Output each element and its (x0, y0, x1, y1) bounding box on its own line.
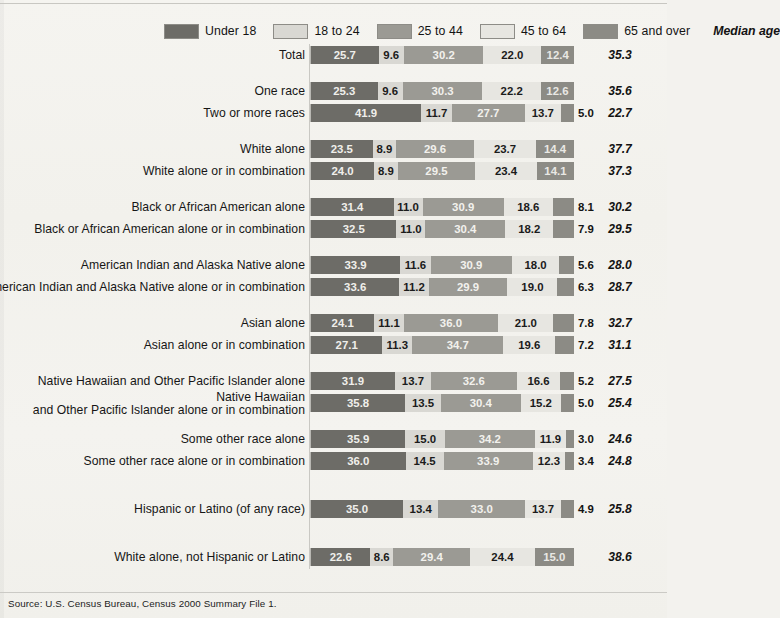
bar-segment-0: 24.0 (311, 162, 374, 180)
legend-item-label: Under 18 (205, 24, 256, 38)
row-group-spacer (0, 124, 667, 138)
row-label-line: Total (279, 48, 305, 62)
bar-segment-1: 14.5 (406, 452, 444, 470)
bar-segment-2: 36.0 (404, 314, 499, 332)
bar-segment-3: 19.6 (503, 336, 555, 354)
bar-segment-2: 30.9 (423, 198, 504, 216)
bar-segment-3: 23.7 (474, 140, 536, 158)
bar-segment-3: 23.4 (475, 162, 537, 180)
legend-item-2: 25 to 44 (377, 24, 463, 39)
stacked-bar: 25.39.630.322.212.6 (310, 82, 574, 100)
bar-segment-3: 12.3 (533, 452, 565, 470)
chart-legend: Under 1818 to 2425 to 4445 to 6465 and o… (0, 20, 667, 42)
bar-segment-0: 31.9 (311, 372, 395, 390)
stacked-bar: 24.08.929.523.414.1 (310, 162, 574, 180)
bar-segment-3: 18.0 (512, 256, 559, 274)
bar-segment-0: 35.8 (311, 394, 405, 412)
legend-item-3: 45 to 64 (480, 24, 566, 39)
top-rule (0, 3, 667, 4)
median-age-value: 37.7 (590, 140, 650, 158)
bar-segment-2: 30.4 (441, 394, 521, 412)
bar-segment-2: 29.5 (398, 162, 476, 180)
stacked-bar: 32.511.030.418.27.9 (310, 220, 574, 238)
bar-segment-0: 36.0 (311, 452, 406, 470)
stacked-bar: 36.014.533.912.33.4 (310, 452, 574, 470)
median-age-value: 27.5 (590, 372, 650, 390)
row-label-line: Asian alone (241, 316, 305, 330)
bar-segment-2: 34.2 (445, 430, 535, 448)
bar-segment-3: 15.2 (521, 394, 561, 412)
row-group-spacer (0, 520, 667, 546)
bar-segment-2: 34.7 (412, 336, 503, 354)
bar-segment-4: 6.3 (557, 278, 574, 296)
bar-segment-4: 7.2 (555, 336, 574, 354)
median-age-value: 35.6 (590, 82, 650, 100)
bar-segment-2: 32.6 (431, 372, 517, 390)
bar-segment-3: 13.7 (525, 500, 561, 518)
median-age-value: 32.7 (590, 314, 650, 332)
row-label: Some other race alone (181, 428, 305, 450)
chart-row: White alone, not Hispanic or Latino22.68… (0, 546, 667, 568)
bar-segment-1: 9.6 (378, 82, 403, 100)
bar-segment-2: 29.9 (429, 278, 508, 296)
row-label-line: Black or African American alone (131, 200, 305, 214)
bar-segment-1: 11.0 (394, 198, 423, 216)
bar-segment-0: 24.1 (311, 314, 374, 332)
median-age-value: 28.0 (590, 256, 650, 274)
median-age-value: 30.2 (590, 198, 650, 216)
bar-segment-2: 29.4 (393, 548, 470, 566)
bar-segment-3: 16.6 (517, 372, 561, 390)
row-label-line: White alone (240, 142, 305, 156)
row-label: White alone, not Hispanic or Latino (114, 546, 305, 568)
row-label: Native Hawaiianand Other Pacific Islande… (33, 391, 305, 416)
median-age-value: 29.5 (590, 220, 650, 238)
bar-segment-1: 15.0 (405, 430, 444, 448)
legend-swatch-icon (377, 24, 412, 39)
median-age-header: Median age (713, 24, 780, 38)
bar-segment-3: 18.2 (505, 220, 553, 238)
bar-segment-3: 24.4 (470, 548, 534, 566)
bar-segment-4: 7.8 (553, 314, 574, 332)
row-label-line: Asian alone or in combination (144, 338, 305, 352)
row-label: One race (254, 80, 305, 102)
bar-segment-3: 13.7 (525, 104, 561, 122)
bar-segment-0: 22.6 (311, 548, 370, 566)
bar-segment-4: 12.4 (541, 46, 574, 64)
bar-segment-4: 3.0 (566, 430, 574, 448)
row-label: Total (279, 44, 305, 66)
row-label: American Indian and Alaska Native alone … (0, 276, 305, 298)
legend-item-label: 45 to 64 (521, 24, 566, 38)
median-age-value: 38.6 (590, 548, 650, 566)
legend-item-4: 65 and over (583, 24, 690, 39)
row-label: Black or African American alone (131, 196, 305, 218)
row-label-line: Two or more races (203, 106, 305, 120)
row-label: Hispanic or Latino (of any race) (134, 498, 305, 520)
bar-segment-4: 14.1 (537, 162, 574, 180)
stacked-bar: 27.111.334.719.67.2 (310, 336, 574, 354)
row-label-line: American Indian and Alaska Native alone … (0, 280, 305, 294)
bar-segment-0: 35.9 (311, 430, 405, 448)
bar-segment-0: 41.9 (311, 104, 421, 122)
bar-segment-0: 27.1 (311, 336, 382, 354)
chart-rows: Total25.79.630.222.012.435.3One race25.3… (0, 44, 667, 568)
stacked-bar: 24.111.136.021.07.8 (310, 314, 574, 332)
bar-segment-4: 3.4 (565, 452, 574, 470)
legend-swatch-icon (480, 24, 515, 39)
bar-segment-1: 11.3 (382, 336, 412, 354)
stacked-bar: 41.911.727.713.75.0 (310, 104, 574, 122)
chart-row: White alone23.58.929.623.714.437.7 (0, 138, 667, 160)
row-group-spacer (0, 182, 667, 196)
stacked-bar: 35.013.433.013.74.9 (310, 500, 574, 518)
legend-swatch-icon (273, 24, 308, 39)
bar-segment-1: 11.1 (374, 314, 403, 332)
bar-segment-2: 29.6 (396, 140, 474, 158)
row-label: Two or more races (203, 102, 305, 124)
median-age-value: 37.3 (590, 162, 650, 180)
median-age-value: 25.4 (590, 394, 650, 412)
stacked-bar: 35.813.530.415.25.0 (310, 394, 574, 412)
stacked-bar: 33.611.229.919.06.3 (310, 278, 574, 296)
row-label: Asian alone (241, 312, 305, 334)
bar-segment-0: 25.7 (311, 46, 379, 64)
median-age-value: 24.6 (590, 430, 650, 448)
bar-segment-3: 22.0 (483, 46, 541, 64)
